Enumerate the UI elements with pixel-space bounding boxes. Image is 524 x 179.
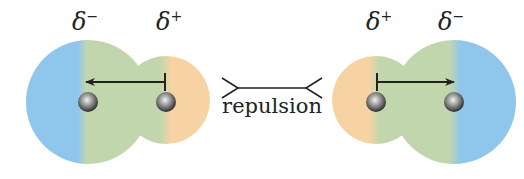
right-positive-atom — [366, 92, 386, 112]
right-electron-cloud — [326, 34, 522, 170]
left-positive-atom — [156, 92, 176, 112]
left-negative-atom — [78, 92, 98, 112]
right-delta-negative-label: δ− — [438, 8, 464, 36]
dipole-repulsion-diagram: δ− δ+ repulsion δ+ δ− — [0, 0, 524, 179]
repulsion-indicator: repulsion — [222, 78, 322, 118]
left-molecule: δ− δ+ — [20, 8, 216, 170]
left-electron-cloud — [20, 34, 216, 170]
right-molecule: δ+ δ− — [326, 8, 522, 170]
left-delta-negative-label: δ− — [72, 8, 98, 36]
right-negative-atom — [444, 92, 464, 112]
repulsion-label: repulsion — [222, 94, 322, 118]
left-delta-positive-label: δ+ — [156, 8, 182, 36]
right-delta-positive-label: δ+ — [366, 8, 392, 36]
